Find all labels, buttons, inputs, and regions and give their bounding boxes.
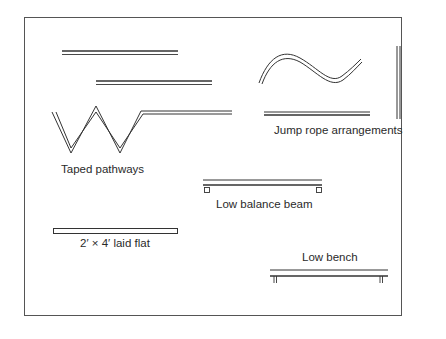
beam-leg-right [317, 188, 322, 193]
jump-rope-wave [259, 54, 362, 84]
label-balance-beam: Low balance beam [216, 198, 313, 210]
taped-line-2 [96, 81, 212, 85]
jump-rope-vertical [397, 46, 400, 119]
label-bench: Low bench [302, 251, 358, 263]
label-board: 2′ × 4′ laid flat [80, 237, 150, 249]
balance-beam [203, 180, 322, 193]
taped-line-1 [62, 51, 178, 55]
board-2x4 [54, 229, 178, 234]
taped-zigzag [52, 106, 232, 153]
label-taped-pathways: Taped pathways [61, 163, 144, 175]
low-bench [270, 270, 388, 283]
jump-rope-horizontal [264, 112, 370, 115]
beam-leg-left [205, 188, 210, 193]
label-jump-rope: Jump rope arrangements [274, 124, 402, 136]
